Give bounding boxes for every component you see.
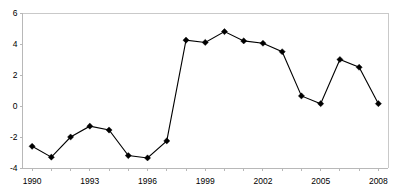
svg-text:1993: 1993 xyxy=(80,176,99,186)
data-point-marker xyxy=(260,40,266,46)
svg-text:1999: 1999 xyxy=(196,176,215,186)
data-point-marker xyxy=(279,49,285,55)
svg-text:2: 2 xyxy=(13,70,18,80)
data-point-marker xyxy=(202,39,208,45)
data-point-marker xyxy=(221,29,227,35)
svg-text:2008: 2008 xyxy=(369,176,388,186)
y-axis-tick-labels: -4-20246 xyxy=(10,8,18,173)
svg-text:2005: 2005 xyxy=(311,176,330,186)
data-point-marker xyxy=(356,64,362,70)
plot-area: -4-20246 1990199319961999200220052008 xyxy=(0,0,395,190)
svg-text:4: 4 xyxy=(13,39,18,49)
data-markers xyxy=(29,29,381,162)
line-chart: -4-20246 1990199319961999200220052008 xyxy=(0,0,395,190)
data-point-marker xyxy=(375,101,381,107)
svg-text:-2: -2 xyxy=(10,132,18,142)
data-point-marker xyxy=(87,123,93,129)
data-point-marker xyxy=(318,101,324,107)
data-point-marker xyxy=(183,37,189,43)
x-axis-tick-labels: 1990199319961999200220052008 xyxy=(23,176,388,186)
svg-text:2002: 2002 xyxy=(253,176,272,186)
data-point-marker xyxy=(298,93,304,99)
svg-text:0: 0 xyxy=(13,101,18,111)
svg-text:-4: -4 xyxy=(10,163,18,173)
data-series xyxy=(32,32,378,158)
svg-text:1990: 1990 xyxy=(23,176,42,186)
data-point-marker xyxy=(29,143,35,149)
svg-text:1996: 1996 xyxy=(138,176,157,186)
data-point-marker xyxy=(337,56,343,62)
data-point-marker xyxy=(241,38,247,44)
svg-text:6: 6 xyxy=(13,8,18,18)
axes xyxy=(23,13,389,168)
series-line xyxy=(32,32,378,158)
